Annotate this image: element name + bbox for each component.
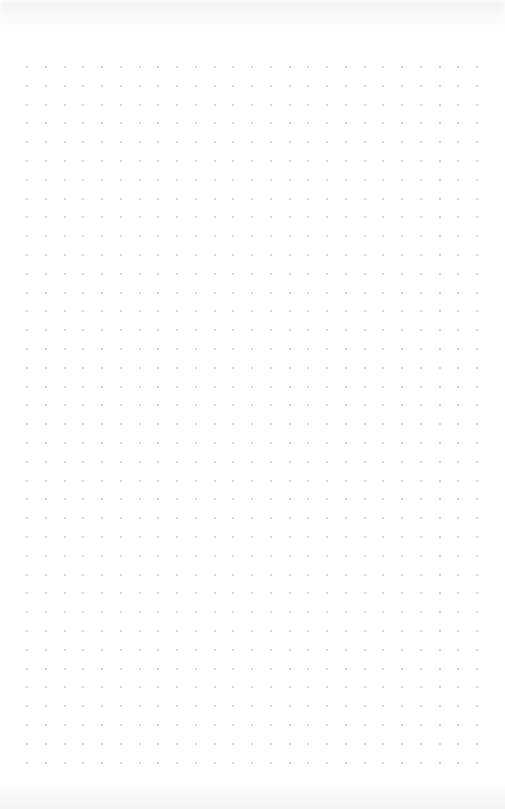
grid-dot <box>26 235 28 237</box>
grid-dot <box>139 762 141 764</box>
grid-dot <box>251 705 253 707</box>
grid-dot <box>307 66 309 68</box>
grid-dot <box>270 630 272 632</box>
grid-dot <box>139 141 141 143</box>
grid-dot <box>439 66 441 68</box>
grid-dot <box>101 348 103 350</box>
bottom-blurred-footer <box>0 779 505 809</box>
grid-dot <box>476 104 478 106</box>
grid-dot <box>457 85 459 87</box>
grid-dot <box>195 292 197 294</box>
grid-dot <box>64 724 66 726</box>
grid-dot <box>214 555 216 557</box>
grid-dot <box>139 329 141 331</box>
grid-dot <box>457 423 459 425</box>
grid-dot <box>120 104 122 106</box>
grid-dot <box>270 122 272 124</box>
grid-dot <box>64 461 66 463</box>
grid-dot <box>101 66 103 68</box>
grid-dot <box>64 386 66 388</box>
grid-dot <box>251 235 253 237</box>
grid-dot <box>82 348 84 350</box>
grid-dot <box>176 254 178 256</box>
grid-dot <box>457 254 459 256</box>
grid-dot <box>289 254 291 256</box>
grid-dot <box>270 461 272 463</box>
grid-dot <box>420 141 422 143</box>
grid-dot <box>45 122 47 124</box>
grid-dot <box>439 310 441 312</box>
grid-dot <box>64 592 66 594</box>
grid-dot <box>364 630 366 632</box>
grid-dot <box>232 404 234 406</box>
grid-dot <box>176 216 178 218</box>
grid-dot <box>139 348 141 350</box>
grid-dot <box>251 348 253 350</box>
grid-dot <box>345 386 347 388</box>
grid-dot <box>101 762 103 764</box>
grid-dot <box>120 743 122 745</box>
grid-dot <box>326 686 328 688</box>
grid-dot <box>64 517 66 519</box>
grid-dot <box>307 592 309 594</box>
grid-dot <box>420 743 422 745</box>
grid-dot <box>382 592 384 594</box>
grid-dot <box>476 85 478 87</box>
grid-dot <box>232 235 234 237</box>
grid-dot <box>26 574 28 576</box>
grid-dot <box>251 743 253 745</box>
grid-dot <box>401 292 403 294</box>
grid-dot <box>139 480 141 482</box>
grid-dot <box>307 160 309 162</box>
grid-dot <box>176 555 178 557</box>
grid-dot <box>26 329 28 331</box>
grid-dot <box>64 442 66 444</box>
grid-dot <box>345 122 347 124</box>
grid-dot <box>139 404 141 406</box>
grid-dot <box>270 160 272 162</box>
grid-dot <box>232 705 234 707</box>
grid-dot <box>214 442 216 444</box>
grid-dot <box>120 141 122 143</box>
grid-dot <box>457 329 459 331</box>
grid-dot <box>270 386 272 388</box>
grid-dot <box>457 461 459 463</box>
grid-dot <box>82 611 84 613</box>
grid-dot <box>270 517 272 519</box>
grid-dot <box>251 498 253 500</box>
grid-dot <box>64 555 66 557</box>
grid-dot <box>364 461 366 463</box>
grid-dot <box>139 310 141 312</box>
grid-dot <box>289 611 291 613</box>
grid-dot <box>64 310 66 312</box>
grid-dot <box>345 141 347 143</box>
grid-dot <box>232 179 234 181</box>
grid-dot <box>232 668 234 670</box>
grid-dot <box>251 611 253 613</box>
grid-dot <box>401 141 403 143</box>
grid-dot <box>270 611 272 613</box>
grid-dot <box>232 273 234 275</box>
grid-dot <box>214 198 216 200</box>
grid-dot <box>251 442 253 444</box>
grid-dot <box>214 254 216 256</box>
grid-dot <box>476 498 478 500</box>
grid-dot <box>82 480 84 482</box>
grid-dot <box>457 367 459 369</box>
grid-dot <box>345 536 347 538</box>
grid-dot <box>401 724 403 726</box>
grid-dot <box>176 386 178 388</box>
grid-dot <box>439 649 441 651</box>
grid-dot <box>345 66 347 68</box>
grid-dot <box>364 141 366 143</box>
grid-dot <box>82 254 84 256</box>
grid-dot <box>157 141 159 143</box>
grid-dot <box>101 423 103 425</box>
grid-dot <box>82 574 84 576</box>
grid-dot <box>307 442 309 444</box>
grid-dot <box>382 498 384 500</box>
grid-dot <box>345 461 347 463</box>
grid-dot <box>176 367 178 369</box>
grid-dot <box>139 216 141 218</box>
grid-dot <box>176 743 178 745</box>
